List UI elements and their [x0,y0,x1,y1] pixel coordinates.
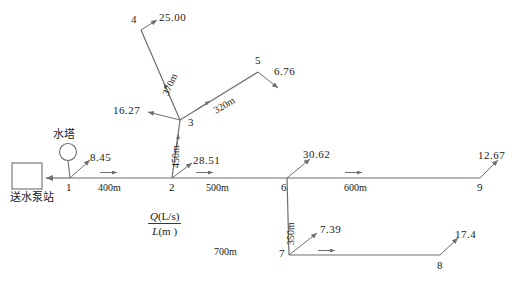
pipe-network-graphic [0,0,517,288]
legend-q-symbol: Q [150,210,158,222]
legend: Q(L/s) L(m ) [148,210,181,237]
demand-arrow-node-8 [440,238,458,255]
node-label-1: 1 [66,182,72,193]
pipe-length-2-6: 500m [206,183,229,193]
demand-value-node-3: 16.27 [113,105,140,116]
pipe-length-7-8: 700m [214,247,237,257]
demand-value-node-1: 8.45 [90,152,111,163]
demand-arrow-node-3 [148,112,180,120]
demand-arrow-node-6 [287,159,310,178]
demand-value-node-9: 12.67 [478,150,505,161]
pipe-length-2-3: 450m [171,145,181,168]
legend-l-unit: (m ) [158,225,177,237]
demand-arrow-node-9 [480,160,498,178]
pipe-length-1-2: 400m [98,183,121,193]
demand-value-node-5: 6.76 [274,66,295,77]
node-label-9: 9 [477,182,483,193]
node-label-8: 8 [437,260,443,271]
demand-value-node-7: 7.39 [320,224,341,235]
demand-value-node-8: 17.4 [455,229,476,240]
legend-numerator: Q(L/s) [148,210,181,224]
pipe-length-6-7: 350m [286,222,296,245]
legend-q-unit: (L/s) [158,210,179,222]
network-diagram: 送水泵站 水塔 1 2 3 4 5 6 7 8 9 8.45 28.51 16.… [0,0,517,288]
water-tower-symbol [60,144,77,161]
flow-arrow-3-5 [196,101,210,110]
demand-value-node-4: 25.00 [159,12,186,23]
node-label-7: 7 [279,248,285,259]
node-label-5: 5 [255,55,261,66]
water-tower-riser [68,161,70,179]
node-label-2: 2 [169,182,175,193]
node-label-3: 3 [188,117,194,128]
node-label-6: 6 [281,182,287,193]
demand-value-node-2: 28.51 [193,155,220,166]
pump-station-symbol [12,163,42,189]
water-tower-label: 水塔 [53,129,75,140]
demand-arrow-node-4 [141,20,157,30]
demand-value-node-6: 30.62 [303,149,330,160]
pump-station-label: 送水泵站 [10,192,54,203]
pipe-length-6-9: 600m [344,183,367,193]
demand-arrow-node-1 [70,160,90,178]
node-label-4: 4 [131,14,137,25]
legend-denominator: L(m ) [148,224,181,237]
